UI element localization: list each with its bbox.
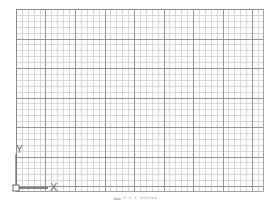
ucs-x-label: X: [50, 181, 58, 193]
ucs-y-label: Y: [16, 144, 23, 155]
grid-border: [17, 10, 264, 192]
drawing-canvas[interactable]: XY: [0, 0, 271, 206]
major-grid-lines: [16, 9, 263, 191]
caption: ▬ ▪ ▪ ▪ ▪▪▪▪▪▪: [0, 194, 271, 201]
ucs-origin-square-icon: [13, 185, 19, 191]
grid: XY: [0, 0, 271, 206]
minor-grid-lines: [16, 9, 263, 191]
